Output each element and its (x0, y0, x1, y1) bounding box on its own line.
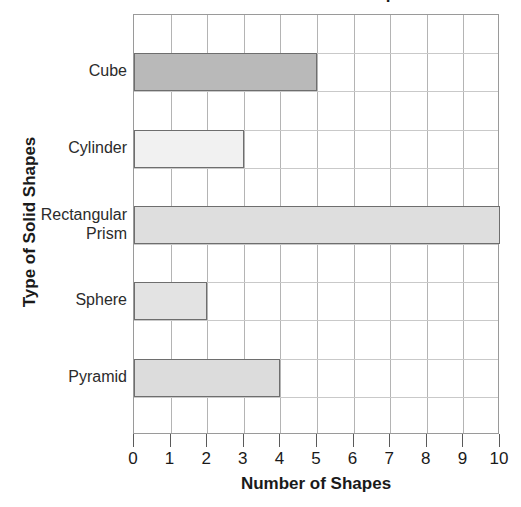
bar (134, 359, 280, 397)
x-axis-tick (389, 434, 390, 447)
x-axis-tick-label: 3 (238, 449, 247, 469)
x-axis-tick-label: 9 (458, 449, 467, 469)
bar-chart: Number of Solid Shapes CubeCylinderRecta… (0, 0, 521, 507)
chart-title: Number of Solid Shapes (133, 0, 499, 4)
y-axis-title: Type of Solid Shapes (20, 107, 40, 337)
x-axis-tick-label: 5 (311, 449, 320, 469)
x-axis-tick (316, 434, 317, 447)
x-axis-tick-label: 8 (421, 449, 430, 469)
x-axis-tick-label: 7 (384, 449, 393, 469)
gridline-horizontal (134, 244, 498, 245)
bar (134, 130, 244, 168)
x-axis-tick (133, 434, 134, 447)
bar (134, 206, 500, 244)
x-axis-tick (353, 434, 354, 447)
x-axis-tick (279, 434, 280, 447)
category-label-line: Cube (0, 61, 127, 80)
x-axis-tick (499, 434, 500, 447)
x-axis-tick-label: 0 (128, 449, 137, 469)
x-axis-title: Number of Shapes (133, 474, 499, 494)
gridline-horizontal (134, 397, 498, 398)
x-axis-tick-label: 2 (201, 449, 210, 469)
bar (134, 282, 207, 320)
x-axis-tick (462, 434, 463, 447)
category-label: Pyramid (0, 367, 127, 386)
gridline-horizontal (134, 168, 498, 169)
gridline-horizontal (134, 320, 498, 321)
x-axis-tick-label: 1 (165, 449, 174, 469)
plot-area (133, 14, 499, 434)
category-label: Cube (0, 61, 127, 80)
x-axis-tick (243, 434, 244, 447)
x-axis-tick (170, 434, 171, 447)
gridline-horizontal (134, 91, 498, 92)
category-label-line: Pyramid (0, 367, 127, 386)
x-axis-tick-label: 10 (490, 449, 509, 469)
bar (134, 53, 317, 91)
x-axis-tick-label: 4 (275, 449, 284, 469)
x-axis-tick (206, 434, 207, 447)
x-axis-tick (426, 434, 427, 447)
x-axis-tick-label: 6 (348, 449, 357, 469)
